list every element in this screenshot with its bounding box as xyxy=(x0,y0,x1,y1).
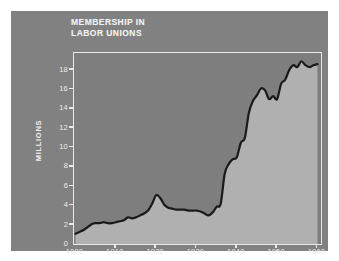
x-tick-label: 1950 xyxy=(256,247,296,256)
y-tick-label: 16 xyxy=(46,84,68,93)
x-tick-label: 1920 xyxy=(135,247,175,256)
plot-area xyxy=(73,52,322,245)
y-tick-label: 8 xyxy=(46,161,68,170)
chart-title: MEMBERSHIP IN LABOR UNIONS xyxy=(71,17,271,38)
x-tick-label: 1910 xyxy=(95,247,135,256)
x-tick-label: 1900 xyxy=(55,247,95,256)
y-tick-label: 2 xyxy=(46,220,68,229)
y-tick-label: 14 xyxy=(46,103,68,112)
y-tick-label: 4 xyxy=(46,200,68,209)
y-axis-label: MILLIONS xyxy=(34,106,43,176)
area-fill-path xyxy=(76,61,318,244)
y-tick-label: 6 xyxy=(46,181,68,190)
area-chart-svg xyxy=(74,53,322,245)
x-tick-label: 1960 xyxy=(296,247,336,256)
y-tick-label: 10 xyxy=(46,142,68,151)
y-tick-label: 12 xyxy=(46,123,68,132)
chart-card: MEMBERSHIP IN LABOR UNIONS MILLIONS 0246… xyxy=(11,11,328,251)
figure-root: MEMBERSHIP IN LABOR UNIONS MILLIONS 0246… xyxy=(0,0,339,261)
x-tick-label: 1930 xyxy=(175,247,215,256)
y-tick-label: 18 xyxy=(46,65,68,74)
x-tick-label: 1940 xyxy=(216,247,256,256)
